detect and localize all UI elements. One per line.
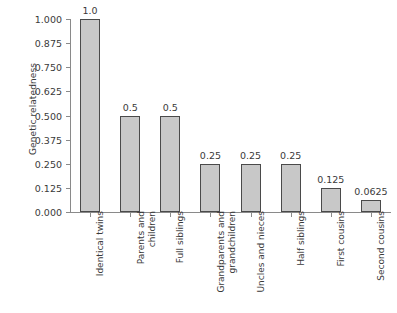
bar-value-label: 0.25 bbox=[200, 150, 221, 161]
x-category-label-line: Parents and bbox=[136, 211, 146, 264]
y-tick-mark bbox=[66, 116, 70, 117]
y-tick-label: 1.000 bbox=[20, 14, 62, 25]
bar-value-label: 0.25 bbox=[280, 150, 301, 161]
y-tick-mark bbox=[66, 91, 70, 92]
x-category-label-line: Half siblings bbox=[296, 211, 306, 266]
x-tick-mark bbox=[291, 213, 292, 217]
y-tick-label: 0.250 bbox=[20, 158, 62, 169]
bar-value-label: 0.5 bbox=[163, 102, 178, 113]
x-tick-mark bbox=[210, 213, 211, 217]
y-tick-label: 0.000 bbox=[20, 207, 62, 218]
y-tick-mark bbox=[66, 212, 70, 213]
x-category-label: Uncles and nieces bbox=[256, 211, 267, 307]
y-tick-label: 0.500 bbox=[20, 110, 62, 121]
x-category-label: Grandparents andgrandchildren bbox=[216, 211, 237, 307]
y-tick-mark bbox=[66, 67, 70, 68]
x-tick-mark bbox=[251, 213, 252, 217]
y-tick-label: 0.750 bbox=[20, 62, 62, 73]
x-category-label-line: Uncles and nieces bbox=[256, 211, 266, 293]
y-tick-label: 0.125 bbox=[20, 182, 62, 193]
x-category-label-line: Second cousins bbox=[376, 211, 386, 281]
y-tick-mark bbox=[66, 140, 70, 141]
y-axis-line bbox=[70, 19, 71, 213]
x-tick-mark bbox=[170, 213, 171, 217]
bar[interactable] bbox=[120, 116, 140, 213]
x-tick-mark bbox=[331, 213, 332, 217]
x-category-label-line: children bbox=[146, 211, 157, 307]
y-tick-mark bbox=[66, 164, 70, 165]
bar-value-label: 0.5 bbox=[123, 102, 138, 113]
x-category-label: Parents andchildren bbox=[136, 211, 157, 307]
bar-value-label: 1.0 bbox=[83, 5, 98, 16]
x-category-label-line: Full siblings bbox=[175, 211, 185, 263]
x-category-label-line: First cousins bbox=[336, 211, 346, 267]
bar[interactable] bbox=[160, 116, 180, 213]
bar[interactable] bbox=[241, 164, 261, 212]
y-tick-label: 0.375 bbox=[20, 134, 62, 145]
y-axis-tick-labels: 0.0000.1250.2500.3750.5000.6250.7500.875… bbox=[18, 0, 62, 313]
bar[interactable] bbox=[80, 19, 100, 212]
bar[interactable] bbox=[281, 164, 301, 212]
x-category-label: First cousins bbox=[336, 211, 347, 307]
x-tick-mark bbox=[130, 213, 131, 217]
bar[interactable] bbox=[200, 164, 220, 212]
bar-value-label: 0.25 bbox=[240, 150, 261, 161]
x-category-label-line: grandchildren bbox=[226, 211, 237, 307]
genetic-relatedness-bar-chart: Genetic relatedness 0.0000.1250.2500.375… bbox=[0, 0, 397, 313]
bar[interactable] bbox=[321, 188, 341, 212]
x-tick-mark bbox=[90, 213, 91, 217]
bar-value-label: 0.125 bbox=[317, 174, 344, 185]
x-category-label-line: Grandparents and bbox=[216, 211, 226, 293]
x-tick-mark bbox=[371, 213, 372, 217]
x-category-label: Identical twins bbox=[95, 211, 106, 307]
y-tick-label: 0.625 bbox=[20, 86, 62, 97]
y-tick-mark bbox=[66, 19, 70, 20]
x-category-label: Second cousins bbox=[376, 211, 387, 307]
x-category-label: Full siblings bbox=[175, 211, 186, 307]
y-tick-mark bbox=[66, 188, 70, 189]
y-tick-mark bbox=[66, 43, 70, 44]
x-category-label: Half siblings bbox=[296, 211, 307, 307]
x-category-label-line: Identical twins bbox=[95, 211, 105, 276]
y-tick-label: 0.875 bbox=[20, 38, 62, 49]
bar-value-label: 0.0625 bbox=[354, 186, 387, 197]
